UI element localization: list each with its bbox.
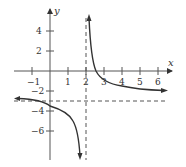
arrowhead-bottom: [78, 153, 83, 160]
y-tick-label: −2: [31, 86, 44, 96]
y-tick-label: 4: [36, 26, 42, 36]
y-axis-label: y: [53, 5, 60, 16]
y-tick-label: 2: [36, 46, 42, 56]
arrowhead-right: [161, 88, 168, 93]
x-tick-label: 1: [65, 77, 71, 87]
x-tick-label: 5: [137, 77, 143, 87]
x-axis-label: x: [168, 57, 174, 68]
curve-left: [18, 99, 80, 157]
x-tick-label: 6: [155, 77, 161, 87]
curve-left-branch: [16, 98, 80, 155]
y-tick-label: −6: [31, 126, 45, 136]
arrowhead-left: [14, 96, 20, 101]
graph: −1 1 2 3 4 5 6 4 2 −2 −4 −6 x y: [0, 0, 186, 167]
y-tick-label: −4: [31, 106, 45, 116]
arrowhead-top: [87, 14, 92, 21]
